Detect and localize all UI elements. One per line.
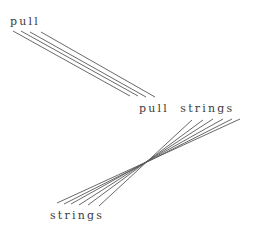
diagram-canvas: pull pull strings strings: [0, 0, 255, 236]
label-pull-top: pull: [10, 16, 40, 28]
label-pull-strings: pull strings: [139, 103, 234, 115]
string-line: [57, 119, 240, 203]
string-group-upper: [13, 31, 155, 97]
string-line: [79, 119, 213, 205]
string-group-lower: [57, 119, 240, 206]
string-line: [88, 120, 203, 205]
string-lines-layer: [0, 0, 255, 236]
string-line: [64, 119, 232, 204]
string-line: [71, 119, 223, 204]
string-line: [13, 31, 130, 96]
label-strings-bottom: strings: [50, 210, 104, 222]
string-line: [21, 31, 138, 96]
string-line: [30, 32, 146, 97]
string-line: [99, 120, 192, 206]
string-line: [41, 32, 155, 97]
